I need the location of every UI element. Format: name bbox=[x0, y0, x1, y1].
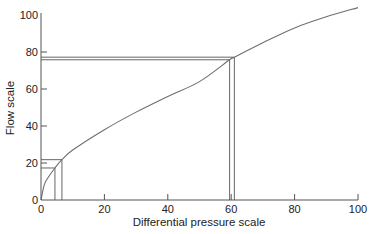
x-tick-label: 0 bbox=[38, 203, 44, 215]
y-tick-label: 0 bbox=[32, 194, 38, 206]
flow-pressure-chart: 020406080100020406080100 Differential pr… bbox=[0, 0, 378, 234]
x-tick-label: 100 bbox=[349, 203, 367, 215]
x-tick-label: 20 bbox=[98, 203, 110, 215]
y-tick-label: 100 bbox=[20, 9, 38, 21]
x-tick-label: 80 bbox=[288, 203, 300, 215]
x-axis-label: Differential pressure scale bbox=[133, 216, 266, 228]
axes: 020406080100020406080100 bbox=[20, 9, 368, 215]
y-tick-label: 20 bbox=[26, 157, 38, 169]
x-tick-label: 60 bbox=[225, 203, 237, 215]
x-tick-label: 40 bbox=[162, 203, 174, 215]
flow-curve bbox=[41, 8, 358, 200]
y-tick-label: 60 bbox=[26, 83, 38, 95]
y-tick-label: 80 bbox=[26, 46, 38, 58]
y-axis-label: Flow scale bbox=[4, 81, 16, 135]
plot-area bbox=[41, 8, 358, 200]
y-tick-label: 40 bbox=[26, 120, 38, 132]
